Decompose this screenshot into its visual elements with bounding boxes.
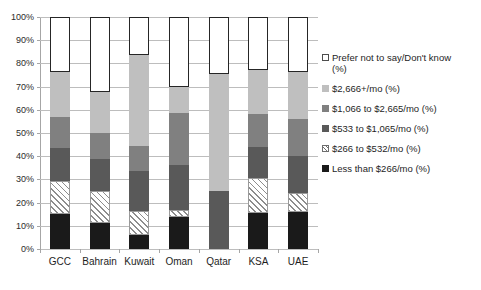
bar-segment — [50, 214, 70, 249]
legend-label: $533 to $1,065/mo (%) — [332, 123, 429, 134]
bar-segment — [50, 181, 70, 215]
bar-segment — [248, 70, 268, 114]
bar-segment — [90, 133, 110, 159]
bar-segment — [169, 87, 189, 114]
y-axis-tick-label: 70% — [0, 82, 34, 91]
x-axis-tick-label: Qatar — [199, 256, 239, 267]
bar-segment — [288, 156, 308, 193]
bar-column — [90, 17, 110, 249]
bar-segment — [248, 213, 268, 249]
legend-swatch-icon — [322, 145, 329, 152]
gridline — [40, 249, 318, 250]
bar-segment — [90, 17, 110, 92]
bar-segment — [90, 191, 110, 223]
y-axis-tick-label: 50% — [0, 129, 34, 138]
bar-segment — [248, 147, 268, 178]
x-axis-tick-label: GCC — [40, 256, 80, 267]
x-axis-tick — [159, 249, 160, 253]
bar-segment — [129, 17, 149, 55]
bar-segment — [169, 217, 189, 249]
x-axis-tick — [119, 249, 120, 253]
y-axis-tick-label: 20% — [0, 198, 34, 207]
legend-swatch-icon — [322, 165, 329, 172]
bar-stack — [169, 17, 189, 249]
legend-item[interactable]: $2,666+/mo (%) — [322, 83, 481, 94]
legend-label: $266 to $532/mo (%) — [332, 143, 421, 154]
y-axis-tick — [37, 203, 40, 204]
bar-segment — [288, 212, 308, 249]
legend-item[interactable]: $266 to $532/mo (%) — [322, 143, 481, 154]
bar-stack — [209, 17, 229, 249]
y-axis-tick-label: 0% — [0, 245, 34, 254]
bar-segment — [129, 211, 149, 235]
y-axis-tick — [37, 110, 40, 111]
y-axis-tick-label: 40% — [0, 152, 34, 161]
plot-area — [40, 17, 318, 249]
bar-segment — [129, 235, 149, 249]
legend-label: $2,666+/mo (%) — [332, 83, 400, 94]
bar-segment — [248, 114, 268, 146]
x-axis-tick — [278, 249, 279, 253]
bar-segment — [90, 159, 110, 191]
chart-legend: Prefer not to say/Don't know (%)$2,666+/… — [322, 52, 481, 183]
y-axis-tick-label: 80% — [0, 59, 34, 68]
y-axis-tick — [37, 40, 40, 41]
bar-segment — [288, 119, 308, 156]
bar-segment — [209, 17, 229, 74]
bar-column — [288, 17, 308, 249]
bar-segment — [248, 178, 268, 213]
y-axis-tick — [37, 156, 40, 157]
bar-segment — [169, 210, 189, 217]
legend-item[interactable]: $533 to $1,065/mo (%) — [322, 123, 481, 134]
bar-stack — [288, 17, 308, 249]
legend-swatch-icon — [322, 54, 329, 61]
x-axis-tick-label: Oman — [159, 256, 199, 267]
legend-label: $1,066 to $2,665/mo (%) — [332, 103, 437, 114]
bar-segment — [169, 17, 189, 87]
x-axis-tick — [239, 249, 240, 253]
bar-column — [169, 17, 189, 249]
bar-segment — [90, 223, 110, 249]
y-axis-tick — [37, 133, 40, 134]
legend-item[interactable]: Prefer not to say/Don't know (%) — [322, 52, 481, 74]
bar-segment — [50, 17, 70, 72]
legend-item[interactable]: $1,066 to $2,665/mo (%) — [322, 103, 481, 114]
bar-stack — [50, 17, 70, 249]
legend-label: Less than $266/mo (%) — [332, 163, 430, 174]
x-axis-tick — [40, 249, 41, 253]
y-axis-tick — [37, 226, 40, 227]
bar-segment — [209, 191, 229, 249]
y-axis-tick — [37, 63, 40, 64]
bar-segment — [129, 55, 149, 145]
bar-segment — [50, 72, 70, 117]
y-axis-tick-label: 100% — [0, 13, 34, 22]
bar-segment — [288, 17, 308, 72]
bar-segment — [50, 148, 70, 180]
bar-column — [248, 17, 268, 249]
legend-item[interactable]: Less than $266/mo (%) — [322, 163, 481, 174]
bar-segment — [209, 74, 229, 191]
legend-swatch-icon — [322, 105, 329, 112]
bar-stack — [129, 17, 149, 249]
stacked-bar-chart: 0%10%20%30%40%50%60%70%80%90%100% GCCBah… — [0, 0, 481, 290]
bar-segment — [288, 193, 308, 212]
bar-column — [209, 17, 229, 249]
bar-segment — [169, 165, 189, 209]
y-axis-tick-label: 90% — [0, 36, 34, 45]
bar-stack — [248, 17, 268, 249]
y-axis-tick-label: 30% — [0, 175, 34, 184]
x-axis-tick — [199, 249, 200, 253]
bar-stack — [90, 17, 110, 249]
y-axis-tick — [37, 17, 40, 18]
bar-column — [50, 17, 70, 249]
bar-group — [40, 17, 318, 249]
bar-segment — [169, 113, 189, 165]
legend-swatch-icon — [322, 85, 329, 92]
x-axis-tick-label: KSA — [239, 256, 279, 267]
x-axis-tick-label: Kuwait — [119, 256, 159, 267]
x-axis-tick — [80, 249, 81, 253]
bar-segment — [288, 72, 308, 120]
legend-swatch-icon — [322, 125, 329, 132]
y-axis-tick — [37, 179, 40, 180]
bar-segment — [129, 171, 149, 210]
